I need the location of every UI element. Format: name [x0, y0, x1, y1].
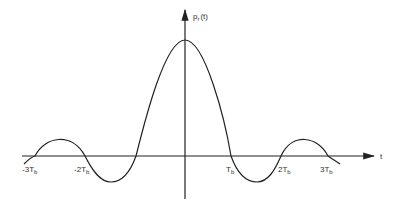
tick-label-neg2: -2Tb: [74, 165, 90, 175]
y-axis-label: pr(t): [193, 12, 208, 22]
tick-label-pos2: 2Tb: [278, 165, 291, 175]
tick-label-pos3: 3Tb: [320, 165, 333, 175]
tick-label-neg3: -3Tb: [22, 165, 38, 175]
pulse-diagram: pr(t) t -3Tb -2Tb Tb 2Tb 3Tb: [0, 0, 399, 207]
x-axis-label: t: [380, 152, 383, 161]
tick-label-pos1: Tb: [226, 165, 235, 175]
pulse-curve: [24, 40, 340, 182]
